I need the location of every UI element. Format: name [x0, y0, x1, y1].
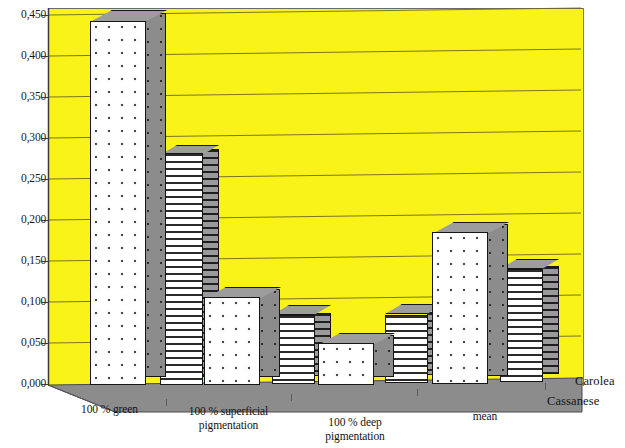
legend-item-carolea: Carolea: [575, 374, 615, 389]
bar-side-face: [542, 266, 559, 374]
y-tick-mark: [41, 97, 48, 98]
bar-front-face: [204, 297, 260, 385]
x-axis-tick: [291, 394, 292, 401]
y-tick-mark: [41, 138, 48, 139]
bar-carolea-mean: [432, 0, 508, 384]
bar-side-face: [145, 13, 166, 377]
x-axis-label-100-deep: 100 % deep pigmentation: [295, 415, 415, 443]
x-axis-label-mean: mean: [425, 409, 545, 423]
x-axis-label-line: 100 % superficial: [166, 404, 291, 418]
y-tick-label: 0,000: [0, 378, 46, 389]
bar-front-face: [90, 21, 146, 385]
bar-cassanese-mean: [500, 0, 558, 382]
y-tick-label: 0,150: [0, 255, 46, 266]
bar-side-face: [487, 224, 508, 376]
y-tick-label: 0,200: [0, 214, 46, 225]
x-axis-tick: [417, 389, 418, 396]
y-tick-label: 0,300: [0, 132, 46, 143]
bar-carolea-100-green: [90, 0, 166, 385]
x-axis-label-100-green: 100 % green: [52, 402, 167, 416]
x-axis-label-line: pigmentation: [295, 429, 415, 443]
legend-item-cassanese: Cassanese: [547, 394, 599, 409]
y-tick-label: 0,100: [0, 296, 46, 307]
x-axis-label-line: 100 % deep: [295, 415, 415, 429]
y-tick-mark: [41, 56, 48, 57]
y-tick-label: 0,250: [0, 173, 46, 184]
y-tick-label: 0,350: [0, 91, 46, 102]
x-axis-tick: [545, 383, 546, 390]
y-tick-label: 0,400: [0, 50, 46, 61]
bar-carolea-100-deep: [318, 0, 394, 385]
x-axis-label-100-superficial: 100 % superficial pigmentation: [166, 404, 291, 432]
bar-chart: 0,450 0,400 0,350 0,300 0,250 0,200 0,15…: [0, 0, 625, 448]
bar-carolea-100-superficial: [204, 0, 280, 385]
x-axis-label-line: mean: [425, 409, 545, 423]
bar-front-face: [432, 232, 488, 384]
bar-side-face: [259, 289, 280, 377]
y-tick-mark: [41, 15, 48, 16]
y-tick-mark: [41, 220, 48, 221]
y-tick-mark: [41, 384, 48, 385]
y-tick-mark: [41, 261, 48, 262]
y-tick-mark: [41, 179, 48, 180]
x-axis-label-line: pigmentation: [166, 418, 291, 432]
x-axis-label-line: 100 % green: [52, 402, 167, 416]
bar-front-face: [160, 153, 203, 385]
y-tick-label: 0,450: [0, 9, 46, 20]
y-tick-mark: [41, 343, 48, 344]
bar-front-face: [318, 343, 374, 385]
y-tick-mark: [41, 302, 48, 303]
y-tick-label: 0,050: [0, 337, 46, 348]
